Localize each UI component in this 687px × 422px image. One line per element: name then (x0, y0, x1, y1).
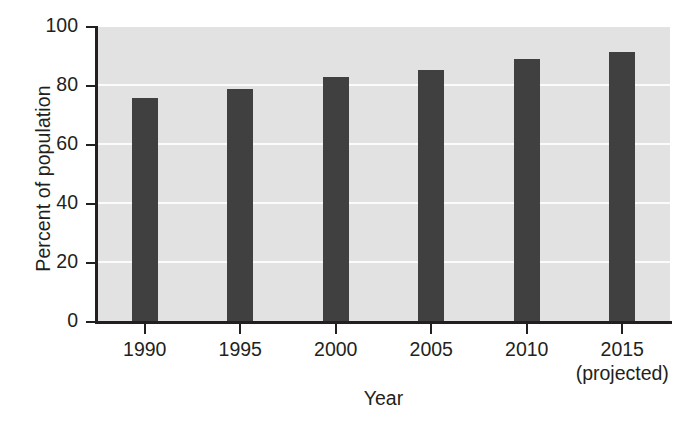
gridline (97, 261, 670, 263)
gridline (97, 143, 670, 145)
y-axis-tick-label: 80 (8, 73, 78, 96)
y-axis-tick-label: 100 (8, 14, 78, 37)
y-axis-tick-label: 20 (8, 250, 78, 273)
x-axis-tick-mark (144, 323, 146, 334)
x-axis-tick-label: 2015 (562, 338, 682, 361)
y-axis-tick-mark (86, 85, 96, 87)
x-axis-line (95, 321, 672, 324)
bar (609, 52, 635, 322)
bar (514, 59, 540, 322)
y-axis-tick-mark (86, 144, 96, 146)
y-axis-tick-mark (86, 203, 96, 205)
bar (323, 77, 349, 322)
y-axis-line (95, 26, 98, 323)
y-axis-tick-mark (86, 321, 96, 323)
gridline (97, 202, 670, 204)
bar-chart-figure: Percent of population 020406080100 19901… (0, 0, 687, 422)
y-axis-tick-mark (86, 262, 96, 264)
bar (132, 98, 158, 322)
y-axis-tick-mark (86, 26, 96, 28)
x-axis-tick-mark (239, 323, 241, 334)
x-axis-tick-sublabel: (projected) (552, 362, 687, 385)
x-axis-title: Year (97, 387, 670, 410)
x-axis-tick-mark (430, 323, 432, 334)
y-axis-tick-label: 0 (8, 309, 78, 332)
y-axis-tick-label: 40 (8, 191, 78, 214)
gridline (97, 84, 670, 86)
plot-area (97, 27, 670, 322)
x-axis-tick-mark (526, 323, 528, 334)
x-axis-tick-mark (335, 323, 337, 334)
x-axis-tick-mark (621, 323, 623, 334)
bar (227, 89, 253, 322)
y-axis-tick-label: 60 (8, 132, 78, 155)
bar (418, 70, 444, 322)
